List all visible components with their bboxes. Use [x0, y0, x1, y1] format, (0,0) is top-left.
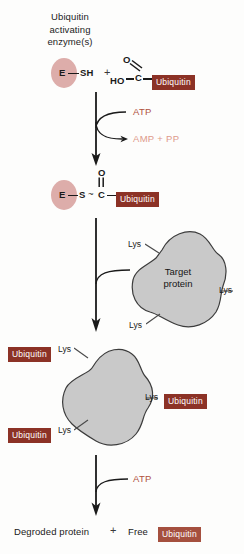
- ubiquitin-chip-label-step5: Ubiquitin: [158, 527, 201, 542]
- target-protein-line-1: Target: [148, 266, 208, 278]
- ubiquitin-chip-step5: Ubiquitin: [158, 523, 201, 542]
- cofactor-atp-2: ATP: [133, 473, 152, 484]
- reaction-arrow-3: [86, 455, 132, 521]
- enzyme-letter-step2: E: [59, 189, 66, 200]
- ubiquitin-chip-step1: Ubiquitin: [152, 71, 195, 90]
- e-s-bond: [68, 195, 78, 197]
- ubiquitin-chip-label-step2: Ubiquitin: [116, 192, 159, 207]
- sulfur-label: S: [79, 189, 86, 200]
- pathway-diagram: Ubiquitin activating enzyme(s) E SH + O …: [0, 0, 244, 554]
- caption-line-2: activating: [20, 24, 120, 37]
- cofactor-atp-1: ATP: [133, 106, 152, 117]
- free-label: Free: [128, 526, 148, 537]
- target-protein-line-2: protein: [148, 278, 208, 290]
- caption-line-3: enzyme(s): [20, 36, 120, 49]
- ubiquitin-chip-label: Ubiquitin: [152, 75, 195, 90]
- lys-label-bottom-step3: Lys: [129, 320, 142, 330]
- lys-label-top-step3: Lys: [128, 239, 141, 249]
- thiol-label: SH: [80, 67, 94, 78]
- ubiquitin-chip-right-step4: Ubiquitin: [164, 390, 207, 409]
- ubiquitin-chip-right-label: Ubiquitin: [164, 394, 207, 409]
- lys-tie-bottom-step3: [146, 312, 166, 328]
- ubiquitin-chip-top-step4: Ubiquitin: [8, 343, 51, 362]
- target-protein-label: Target protein: [148, 266, 208, 290]
- lys-label-right-step4: Lys: [145, 392, 158, 402]
- lys-tie-bottom-step4: [74, 418, 94, 434]
- carboxyl-carbon: C: [135, 72, 142, 83]
- caption-line-1: Ubiquitin: [20, 11, 120, 24]
- ubiquitin-chip-bottom-step4: Ubiquitin: [8, 424, 51, 443]
- lys-label-top-step4: Lys: [58, 344, 71, 354]
- cofactor-amp-pp: AMP + PP: [133, 133, 179, 144]
- thioester-bond-symbol: ~: [88, 188, 94, 199]
- carbonyl-double-bond-step2: [96, 177, 110, 191]
- ubiquitin-chip-bottom-label: Ubiquitin: [8, 428, 51, 443]
- e-sh-bond: [68, 73, 79, 75]
- ubiquitin-chip-step2: Ubiquitin: [116, 188, 159, 207]
- reaction-arrow-1: [78, 92, 138, 172]
- activating-enzyme-caption: Ubiquitin activating enzyme(s): [20, 11, 120, 49]
- enzyme-letter: E: [59, 67, 66, 78]
- lys-tie-top-step3: [145, 240, 165, 256]
- lys-label-right-step3: Lys: [219, 285, 232, 295]
- hydroxyl-label: HO: [110, 75, 125, 86]
- ho-c-bond: [126, 78, 134, 80]
- lys-label-bottom-step4: Lys: [58, 425, 71, 435]
- plus-sign-step5: +: [110, 524, 116, 536]
- ubiquitin-chip-top-label: Ubiquitin: [8, 347, 51, 362]
- degraded-protein-label: Degroded protein: [14, 526, 89, 537]
- lys-tie-top-step4: [74, 345, 94, 361]
